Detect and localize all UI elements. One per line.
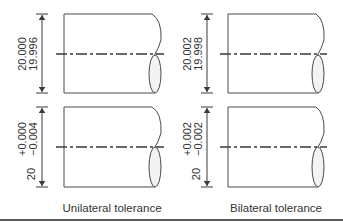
shaft-section-ellipse <box>312 147 324 187</box>
shaft-limits-bilateral: 20.002 19.998 <box>181 14 327 93</box>
bilateral-panel: 20.002 19.998 20 +0.002 −0.002 Bilateral… <box>181 14 327 214</box>
shaft-section-ellipse <box>149 147 161 187</box>
lower-limit-text: 19.998 <box>192 37 204 71</box>
tolerance-diagram: 20.000 19.996 20 +0.000 −0.004 Unilatera… <box>0 0 343 222</box>
caption-unilateral: Unilateral tolerance <box>62 202 161 214</box>
lower-limit-text: 19.996 <box>27 37 39 71</box>
caption-bilateral: Bilateral tolerance <box>230 202 322 214</box>
shaft-section-ellipse <box>312 55 324 93</box>
basic-size-text: 20 <box>25 168 37 180</box>
lower-deviation-text: −0.004 <box>27 122 39 156</box>
shaft-deviation-bilateral: 20 +0.002 −0.002 <box>181 107 327 187</box>
lower-deviation-text: −0.002 <box>192 122 204 156</box>
unilateral-panel: 20.000 19.996 20 +0.000 −0.004 Unilatera… <box>16 14 164 214</box>
shaft-section-ellipse <box>149 55 161 93</box>
shaft-limits-unilateral: 20.000 19.996 <box>16 14 164 93</box>
shaft-deviation-unilateral: 20 +0.000 −0.004 <box>16 107 164 187</box>
basic-size-text: 20 <box>190 168 202 180</box>
